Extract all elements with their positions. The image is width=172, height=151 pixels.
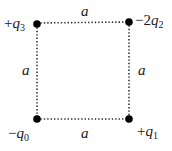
square-charge-diagram: +q3 −2q2 −q0 +q1 a a a a — [0, 0, 172, 151]
edge-label-right: a — [138, 63, 146, 78]
charge-label-bottom-left: −q0 — [8, 126, 29, 141]
charge-subscript: 1 — [153, 130, 158, 141]
charge-symbol: q — [16, 125, 24, 141]
charge-dot-bottom-right — [125, 115, 133, 123]
charge-label-top-left: +q3 — [4, 16, 25, 31]
charge-subscript: 2 — [158, 19, 163, 30]
charge-symbol: q — [12, 15, 20, 31]
charge-symbol: q — [145, 123, 153, 139]
charge-subscript: 3 — [20, 22, 25, 33]
charge-coef: 2 — [143, 12, 151, 28]
charge-label-top-right: −2q2 — [135, 13, 163, 28]
charge-dot-top-right — [125, 18, 133, 26]
edge-label-top: a — [81, 4, 89, 19]
charge-label-bottom-right: +q1 — [137, 124, 158, 139]
charge-dot-top-left — [33, 20, 41, 28]
charge-dot-bottom-left — [33, 115, 41, 123]
edge-label-left: a — [22, 63, 30, 78]
charge-subscript: 0 — [24, 132, 29, 143]
top-edge-line — [37, 22, 129, 23]
edge-label-bottom: a — [81, 126, 89, 141]
